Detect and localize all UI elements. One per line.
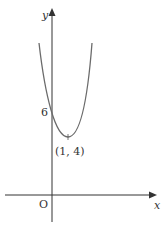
x-axis-label: x <box>154 199 161 212</box>
origin-label: O <box>39 198 48 211</box>
parabola-curve-smooth <box>39 43 92 137</box>
vertex-label: (1, 4) <box>55 145 85 158</box>
y-axis-arrow-icon <box>49 8 56 16</box>
x-axis-arrow-icon <box>149 192 157 199</box>
y-intercept-label: 6 <box>41 106 48 119</box>
parabola-diagram: y x O 6 (1, 4) <box>0 0 165 231</box>
y-axis-label: y <box>41 9 49 22</box>
